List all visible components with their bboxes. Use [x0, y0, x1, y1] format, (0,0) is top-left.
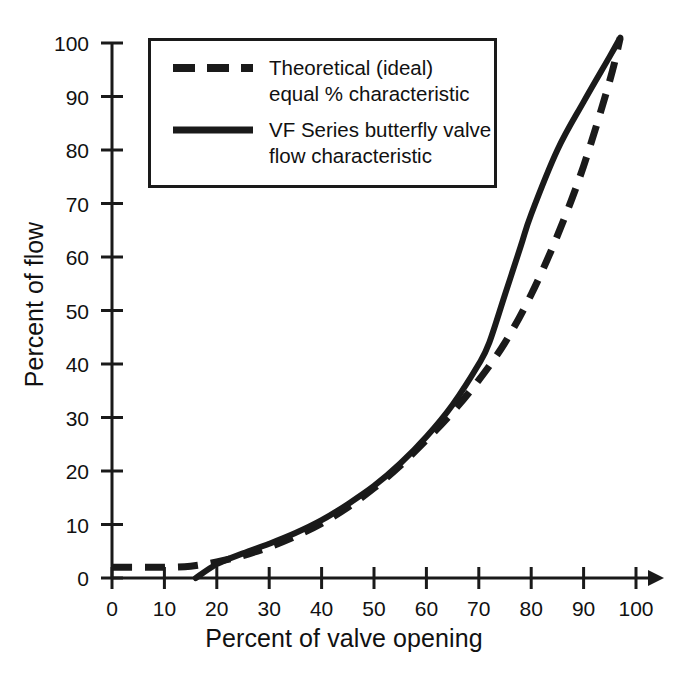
x-tick-label: 0	[106, 598, 118, 619]
y-tick-label: 90	[17, 86, 89, 107]
y-tick-label: 10	[17, 514, 89, 535]
y-tick-label: 0	[17, 568, 89, 589]
y-axis-title: Percent of flow	[20, 185, 49, 425]
x-tick-label: 40	[310, 598, 333, 619]
legend-dashed-line-icon	[171, 57, 255, 79]
x-axis-title: Percent of valve opening	[0, 624, 688, 653]
x-tick-label: 30	[258, 598, 281, 619]
x-tick-label: 90	[572, 598, 595, 619]
legend: Theoretical (ideal) equal % characterist…	[148, 38, 497, 188]
x-tick-label: 60	[415, 598, 438, 619]
x-tick-label: 50	[362, 598, 385, 619]
y-tick-label: 20	[17, 461, 89, 482]
x-tick-label: 100	[618, 598, 653, 619]
x-tick-label: 10	[153, 598, 176, 619]
x-tick-label: 70	[467, 598, 490, 619]
x-axis-arrow-icon	[648, 570, 664, 586]
legend-label-theoretical: Theoretical (ideal) equal % characterist…	[269, 55, 470, 107]
x-tick-label: 20	[205, 598, 228, 619]
y-tick-label: 100	[17, 33, 89, 54]
x-tick-label: 80	[520, 598, 543, 619]
legend-label-vf-series: VF Series butterfly valve flow character…	[269, 117, 491, 169]
legend-solid-line-icon	[171, 119, 255, 141]
legend-item-theoretical: Theoretical (ideal) equal % characterist…	[171, 57, 470, 107]
y-tick-label: 80	[17, 140, 89, 161]
chart-figure: 0102030405060708090100 01020304050607080…	[0, 0, 688, 680]
legend-item-vf-series: VF Series butterfly valve flow character…	[171, 119, 491, 169]
